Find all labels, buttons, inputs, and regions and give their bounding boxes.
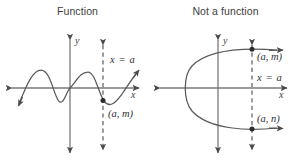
wave-curve-arrow-right <box>133 70 139 78</box>
point-label-a-n-not-a-function: (a, n) <box>257 113 280 125</box>
intersection-point-a-n <box>250 127 255 132</box>
wave-curve-arrow-left <box>19 97 23 106</box>
panel-function: Function y x <box>0 0 149 167</box>
point-label-a-m-function: (a, m) <box>108 108 134 120</box>
y-axis-label-not-a-function: y <box>222 35 228 46</box>
vertical-line-test-figure: Function y x <box>0 0 298 167</box>
intersection-point-a-m <box>250 47 255 52</box>
parabola-arrow-lower <box>269 128 283 129</box>
y-axis-label-function: y <box>74 35 80 46</box>
intersection-point-a-m <box>101 98 106 103</box>
vertical-line-label-function: x = a <box>109 54 135 65</box>
not-a-function-graph: y x (a, m) x = a (a, n) <box>149 0 298 167</box>
x-axis-label-not-a-function: x <box>278 89 284 100</box>
x-axis-label-function: x <box>130 89 136 100</box>
point-label-a-m-not-a-function: (a, m) <box>257 51 283 63</box>
function-graph: y x x = a (a, m) <box>0 0 149 167</box>
vertical-line-label-not-a-function: x = a <box>256 72 282 83</box>
panel-not-a-function: Not a function y x <box>149 0 298 167</box>
wave-curve <box>20 70 136 105</box>
